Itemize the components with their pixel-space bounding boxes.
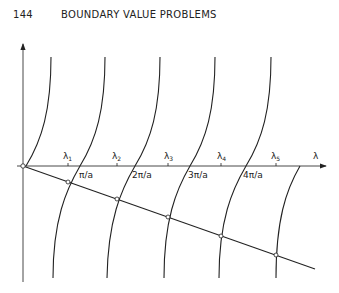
svg-text:2π/a: 2π/a [132, 170, 152, 180]
svg-text:λ2: λ2 [112, 151, 121, 162]
svg-text:λ4: λ4 [217, 151, 226, 162]
svg-text:λ: λ [313, 151, 319, 161]
svg-text:λ3: λ3 [164, 151, 173, 162]
tan-branches [26, 57, 300, 278]
eigenvalue-plot: λ1 λ2 λ3 λ4 λ5 λ π/a 2π/a 3π/a 4π/a [0, 0, 339, 293]
svg-text:3π/a: 3π/a [188, 170, 208, 180]
svg-text:λ5: λ5 [271, 151, 280, 162]
lambda-labels: λ1 λ2 λ3 λ4 λ5 λ [63, 151, 319, 162]
svg-text:4π/a: 4π/a [243, 170, 263, 180]
svg-text:π/a: π/a [79, 170, 93, 180]
pi-labels: π/a 2π/a 3π/a 4π/a [79, 170, 263, 180]
svg-text:λ1: λ1 [63, 151, 72, 162]
